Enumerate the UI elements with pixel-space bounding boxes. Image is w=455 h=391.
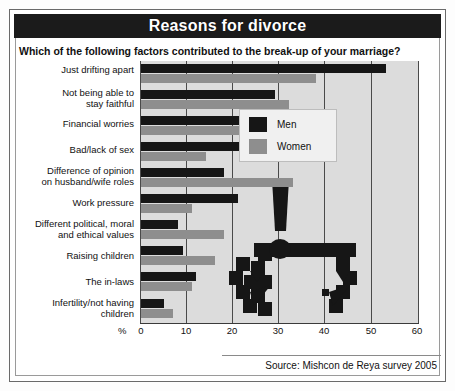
bar-women-8 bbox=[141, 282, 192, 291]
bar-men-6 bbox=[141, 220, 178, 229]
x-axis-ticks: 0 10 20 30 40 50 60 bbox=[14, 325, 441, 341]
chart-subtitle: Which of the following factors contribut… bbox=[19, 41, 437, 60]
x-tick-20: 20 bbox=[227, 325, 238, 336]
category-label-1: Not being able to stay faithful bbox=[62, 87, 134, 109]
category-label-8: The in-laws bbox=[85, 276, 134, 287]
legend-label-women: Women bbox=[277, 141, 311, 152]
category-label-0: Just drifting apart bbox=[61, 64, 134, 75]
x-tick-40: 40 bbox=[319, 325, 330, 336]
bar-women-7 bbox=[141, 256, 215, 265]
bar-women-4 bbox=[141, 178, 293, 187]
x-tick-10: 10 bbox=[181, 325, 192, 336]
category-label-5: Work pressure bbox=[72, 197, 134, 208]
bar-men-8 bbox=[141, 272, 196, 281]
category-label-3: Bad/lack of sex bbox=[70, 144, 134, 155]
bar-women-6 bbox=[141, 230, 224, 239]
bar-men-3 bbox=[141, 142, 247, 151]
bar-women-1 bbox=[141, 100, 289, 109]
bar-women-5 bbox=[141, 204, 192, 213]
bar-women-9 bbox=[141, 309, 173, 318]
category-label-9: Infertility/not having children bbox=[52, 297, 134, 319]
x-tick-50: 50 bbox=[366, 325, 377, 336]
bar-men-1 bbox=[141, 90, 275, 99]
bar-men-9 bbox=[141, 299, 164, 308]
legend-swatch-men-icon bbox=[249, 117, 267, 132]
x-tick-0: 0 bbox=[138, 325, 143, 336]
page-title: Reasons for divorce bbox=[149, 17, 307, 35]
category-label-4: Difference of opinion on husband/wife ro… bbox=[42, 165, 134, 187]
bar-men-5 bbox=[141, 194, 238, 203]
gridline-50 bbox=[371, 61, 372, 323]
category-labels: Just drifting apart Not being able to st… bbox=[14, 61, 138, 323]
legend: Men Women bbox=[239, 109, 337, 162]
legend-row-men: Men bbox=[249, 117, 296, 132]
chart-page: Reasons for divorce Which of the followi… bbox=[0, 0, 455, 391]
legend-row-women: Women bbox=[249, 139, 311, 154]
category-label-2: Financial worries bbox=[63, 118, 134, 129]
bar-men-7 bbox=[141, 246, 183, 255]
category-label-7: Raising children bbox=[66, 250, 134, 261]
bar-women-0 bbox=[141, 74, 316, 83]
x-axis-line bbox=[140, 323, 419, 324]
gridline-40 bbox=[324, 61, 325, 323]
title-banner: Reasons for divorce bbox=[14, 14, 441, 38]
category-label-6: Different political, moral and ethical v… bbox=[35, 218, 134, 240]
bar-women-3 bbox=[141, 152, 206, 161]
bar-men-0 bbox=[141, 64, 386, 73]
bar-men-4 bbox=[141, 168, 224, 177]
legend-label-men: Men bbox=[277, 119, 296, 130]
x-tick-30: 30 bbox=[273, 325, 284, 336]
source-text: Source: Mishcon de Reya survey 2005 bbox=[265, 360, 437, 371]
x-tick-60: 60 bbox=[412, 325, 423, 336]
source-container: Source: Mishcon de Reya survey 2005 bbox=[222, 356, 441, 374]
legend-swatch-women-icon bbox=[249, 139, 267, 154]
chart-area: Just drifting apart Not being able to st… bbox=[14, 61, 441, 351]
